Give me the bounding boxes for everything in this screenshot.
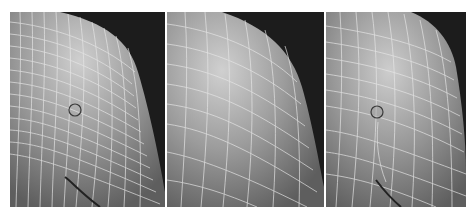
mesh-render [167,12,324,207]
selection-marker-icon [371,106,383,118]
mesh-panel-coarse [167,12,324,207]
mesh-render [10,12,165,207]
mesh-panel-dense [10,12,165,207]
mesh-panel-medium [326,12,466,207]
mesh-render [326,12,466,207]
